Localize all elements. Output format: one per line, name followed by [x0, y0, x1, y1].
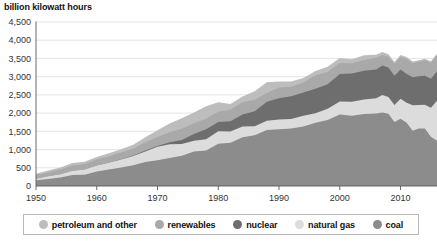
legend-item-petroleum-and-other[interactable]: petroleum and other — [39, 220, 137, 230]
y-tick-label: 3,000 — [8, 72, 31, 82]
legend-label: petroleum and other — [52, 220, 137, 230]
x-tick-label: 2000 — [330, 193, 350, 203]
y-tick-label: 500 — [16, 163, 31, 173]
chart-root: billion kilowatt hours 05001,0001,5002,0… — [0, 0, 437, 241]
legend-item-natural-gas[interactable]: natural gas — [295, 220, 355, 230]
x-tick-label: 1980 — [208, 193, 228, 203]
x-tick-label: 1950 — [26, 193, 46, 203]
y-tick-label: 1,000 — [8, 145, 31, 155]
legend-label: coal — [386, 220, 404, 230]
legend-label: natural gas — [308, 220, 355, 230]
y-tick-label: 2,500 — [8, 90, 31, 100]
legend-swatch-icon — [295, 220, 304, 229]
y-tick-label: 3,500 — [8, 54, 31, 64]
y-tick-label: 0 — [26, 181, 31, 191]
y-tick-label: 4,500 — [8, 17, 31, 27]
legend-swatch-icon — [155, 220, 164, 229]
chart-legend: petroleum and otherrenewablesnuclearnatu… — [23, 214, 419, 235]
stacked-area-chart: 05001,0001,5002,0002,5003,0003,5004,0004… — [0, 0, 437, 205]
legend-item-coal[interactable]: coal — [373, 220, 404, 230]
x-tick-label: 1990 — [269, 193, 289, 203]
y-tick-label: 1,500 — [8, 127, 31, 137]
legend-label: renewables — [168, 220, 216, 230]
legend-swatch-icon — [39, 220, 48, 229]
x-tick-label: 1960 — [87, 193, 107, 203]
plot-area: 05001,0001,5002,0002,5003,0003,5004,0004… — [0, 0, 437, 205]
x-tick-label: 1970 — [147, 193, 167, 203]
x-tick-label: 2010 — [391, 193, 411, 203]
y-tick-label: 4,000 — [8, 35, 31, 45]
legend-swatch-icon — [373, 220, 382, 229]
legend-swatch-icon — [233, 220, 242, 229]
legend-label: nuclear — [246, 220, 277, 230]
y-tick-label: 2,000 — [8, 108, 31, 118]
legend-item-renewables[interactable]: renewables — [155, 220, 216, 230]
legend-item-nuclear[interactable]: nuclear — [233, 220, 277, 230]
